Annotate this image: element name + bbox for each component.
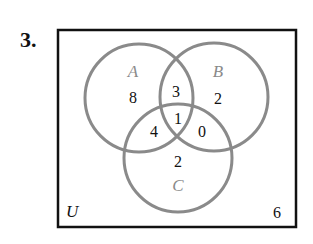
region-outside-count: 6: [273, 204, 281, 221]
venn-diagram-figure: 3. A B C 8 2 3 1 4 0 2 U 6: [0, 0, 313, 244]
region-c-only-count: 2: [174, 153, 182, 170]
region-a-b-c-count: 1: [174, 110, 182, 127]
universe-label: U: [66, 202, 80, 221]
region-a-and-b-count: 3: [172, 83, 180, 100]
region-b-and-c-count: 0: [198, 123, 206, 140]
set-a-label: A: [127, 62, 139, 81]
problem-number: 3.: [20, 27, 37, 52]
set-b-label: B: [213, 62, 224, 81]
region-b-only-count: 2: [214, 90, 222, 107]
set-c-label: C: [172, 176, 184, 195]
region-a-only-count: 8: [129, 89, 137, 106]
region-a-and-c-count: 4: [150, 123, 158, 140]
